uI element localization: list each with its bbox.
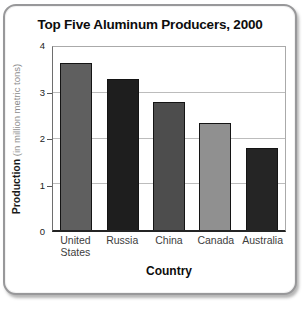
- x-tick-label: Australia: [239, 235, 286, 258]
- y-axis-ticks: 01234: [29, 46, 45, 232]
- bar-china: [153, 102, 185, 230]
- y-tick-label: 2: [29, 134, 45, 144]
- y-tick-mark: [47, 139, 52, 140]
- x-axis-title: Country: [52, 264, 286, 278]
- y-tick-label: 3: [29, 88, 45, 98]
- plot-area: [52, 46, 286, 232]
- y-axis-label: Production (in million metric tons): [3, 46, 29, 232]
- x-tick-label: China: [146, 235, 193, 258]
- bar-canada: [199, 123, 231, 231]
- bar-united-states: [60, 63, 92, 230]
- y-tick-mark: [47, 186, 52, 187]
- x-tick-label: Russia: [99, 235, 146, 258]
- y-tick-label: 4: [29, 41, 45, 51]
- bar-russia: [107, 79, 139, 230]
- y-tick-mark: [47, 93, 52, 94]
- y-axis-label-unit: (in million metric tons): [11, 64, 22, 156]
- y-axis-label-main: Production: [10, 159, 22, 214]
- chart-card: Top Five Aluminum Producers, 2000 Produc…: [3, 4, 297, 295]
- chart-title: Top Five Aluminum Producers, 2000: [5, 17, 295, 32]
- x-tick-label: United States: [52, 235, 99, 258]
- x-tick-label: Canada: [192, 235, 239, 258]
- y-tick-label: 0: [29, 227, 45, 237]
- x-axis-category-labels: United StatesRussiaChinaCanadaAustralia: [52, 235, 286, 258]
- y-tick-label: 1: [29, 181, 45, 191]
- bar-australia: [246, 148, 278, 230]
